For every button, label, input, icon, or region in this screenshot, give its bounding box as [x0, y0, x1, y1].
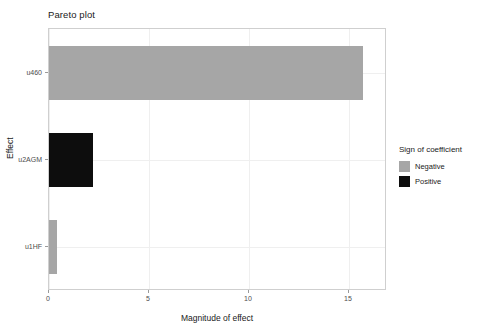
- x-tick-label: 0: [46, 295, 50, 302]
- x-tick-mark: [148, 290, 149, 293]
- legend-swatch-icon: [399, 176, 410, 187]
- x-tick-label: 10: [244, 295, 252, 302]
- x-tick-label: 5: [146, 295, 150, 302]
- bar-u1HF: [49, 220, 57, 274]
- plot-panel: [48, 28, 386, 290]
- y-tick-mark: [45, 246, 48, 247]
- y-tick-label-u460: u460: [0, 68, 42, 75]
- legend-items: NegativePositive: [399, 159, 462, 188]
- x-tick-mark: [348, 290, 349, 293]
- bar-u2AGM: [49, 133, 93, 187]
- legend-item-positive: Positive: [399, 174, 462, 188]
- x-axis-title: Magnitude of effect: [48, 313, 386, 323]
- y-tick-mark: [45, 72, 48, 73]
- legend-item-label: Positive: [415, 177, 441, 186]
- pareto-plot-figure: Pareto plot 051015 u460u2AGMu1HF Magnitu…: [0, 0, 492, 335]
- gridline-horizontal: [49, 160, 385, 161]
- page-title: Pareto plot: [48, 9, 95, 20]
- x-tick-label: 15: [344, 295, 352, 302]
- gridline-horizontal: [49, 247, 385, 248]
- bar-u460: [49, 46, 363, 100]
- legend: Sign of coefficient NegativePositive: [399, 145, 462, 189]
- legend-title: Sign of coefficient: [399, 145, 462, 154]
- y-tick-mark: [45, 159, 48, 160]
- x-tick-mark: [48, 290, 49, 293]
- legend-item-label: Negative: [415, 162, 445, 171]
- legend-item-negative: Negative: [399, 159, 462, 173]
- x-tick-mark: [248, 290, 249, 293]
- legend-swatch-icon: [399, 161, 410, 172]
- y-tick-label-u1HF: u1HF: [0, 243, 42, 250]
- y-axis-title: Effect: [5, 137, 15, 159]
